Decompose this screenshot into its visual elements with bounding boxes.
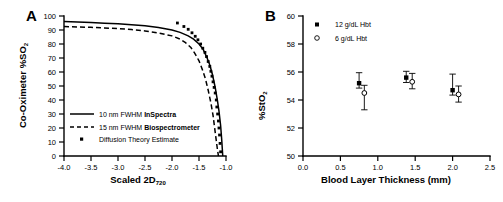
- figure-container: A Co-Oximeter %SO2 Scaled 2D720: [0, 0, 503, 202]
- data-point: [197, 38, 200, 41]
- y-tick-label: 90: [48, 26, 56, 35]
- panel-a-x-axis-title: Scaled 2D720: [110, 174, 166, 186]
- x-tick-label: 0.5: [335, 163, 345, 172]
- data-point: [204, 51, 207, 54]
- y-tick-label: 40: [48, 96, 56, 105]
- legend-item-1: 15 nm FWHM Biospectrometer: [99, 124, 200, 132]
- panel-a-x-ticks: [64, 156, 226, 161]
- y-tick-label: 0: [52, 152, 56, 161]
- svg-text:Co-Oximeter %SO2: Co-Oximeter %SO2: [17, 42, 29, 128]
- error-bar: [356, 73, 362, 88]
- y-tick-label: 50: [48, 82, 56, 91]
- data-point-filled-square: [404, 75, 408, 79]
- data-point: [194, 35, 197, 38]
- panel-a-plot: Co-Oximeter %SO2 Scaled 2D720: [0, 0, 251, 202]
- x-tick-label: 1.5: [410, 163, 420, 172]
- panel-b-x-axis-title: Blood Layer Thickness (mm): [321, 174, 451, 185]
- panel-a: A Co-Oximeter %SO2 Scaled 2D720: [0, 0, 251, 202]
- legend-item-0: 10 nm FWHM InSpectra: [99, 111, 176, 119]
- data-point: [219, 150, 222, 153]
- y-tick-label: 70: [48, 54, 56, 63]
- data-point-open-circle: [410, 79, 415, 84]
- legend-item-0: 12 g/dL Hbt: [335, 21, 371, 29]
- panel-a-y-tick-labels: 100 90 80 70 60 50 40 30 20 10 0: [43, 12, 56, 161]
- x-tick-label: 0.0: [298, 163, 308, 172]
- panel-b: B %StO2 Blood Layer Thickness (mm): [251, 0, 503, 202]
- data-point: [187, 28, 190, 31]
- data-point: [176, 22, 179, 25]
- data-point-open-circle: [456, 92, 461, 97]
- panel-a-ylabel-sub: 2: [23, 42, 29, 46]
- panel-b-y-ticks: [298, 16, 303, 156]
- y-tick-label: 50: [287, 152, 295, 161]
- x-tick-label: -2.5: [139, 163, 152, 172]
- panel-a-x-tick-labels: -4.0 -3.5 -3.0 -2.5 -2.0 -1.5 -1.0: [58, 163, 233, 172]
- panel-b-legend: 12 g/dL Hbt 6 g/dL Hbt: [315, 21, 371, 43]
- y-tick-label: 30: [48, 110, 56, 119]
- x-tick-label: 2.0: [447, 163, 457, 172]
- y-tick-label: 56: [287, 68, 295, 77]
- legend-open-circle-icon: [315, 36, 320, 41]
- data-point: [201, 47, 204, 50]
- series-12gdl-points: [356, 71, 456, 95]
- y-tick-label: 52: [287, 124, 295, 133]
- x-tick-label: 1.0: [373, 163, 383, 172]
- svg-text:%StO2: %StO2: [256, 91, 268, 120]
- x-tick-label: -1.0: [220, 163, 233, 172]
- y-tick-label: 54: [287, 96, 295, 105]
- panel-a-legend: 10 nm FWHM InSpectra 15 nm FWHM Biospect…: [70, 111, 200, 144]
- series-6gdl-points: [361, 73, 462, 109]
- panel-b-y-axis-title: %StO2: [256, 91, 268, 120]
- panel-b-y-tick-labels: 60 58 56 54 52 50: [287, 12, 295, 161]
- x-tick-label: 2.5: [485, 163, 495, 172]
- panel-a-y-ticks: [59, 16, 64, 156]
- y-tick-label: 60: [48, 68, 56, 77]
- data-point: [213, 86, 216, 89]
- data-point: [207, 60, 210, 63]
- data-point: [215, 99, 218, 102]
- panel-a-y-axis-title: Co-Oximeter %SO2: [17, 42, 29, 128]
- legend-filled-square-icon: [315, 23, 319, 27]
- data-point: [217, 120, 220, 123]
- y-tick-label: 58: [287, 40, 295, 49]
- x-tick-label: -2.0: [166, 163, 179, 172]
- data-point: [218, 134, 221, 137]
- panel-a-ylabel-text: Co-Oximeter %SO: [17, 46, 28, 128]
- panel-b-ylabel-sub: 2: [262, 91, 268, 95]
- legend-filled-square-icon: [80, 138, 83, 141]
- y-tick-label: 100: [43, 12, 56, 21]
- panel-a-xlabel-text: Scaled 2D: [110, 174, 156, 185]
- panel-b-plot: %StO2 Blood Layer Thickness (mm) 60: [251, 0, 503, 202]
- y-tick-label: 10: [48, 138, 56, 147]
- data-point-filled-square: [357, 81, 361, 85]
- data-point: [218, 127, 221, 130]
- legend-item-2: Diffusion Theory Estimate: [99, 136, 179, 144]
- legend-item-1: 6 g/dL Hbt: [335, 35, 367, 43]
- y-tick-label: 20: [48, 124, 56, 133]
- data-point: [199, 43, 202, 46]
- panel-a-xlabel-sub: 720: [156, 180, 167, 186]
- x-tick-label: -3.5: [85, 163, 98, 172]
- y-tick-label: 60: [287, 12, 295, 21]
- data-point: [208, 65, 211, 68]
- data-point: [182, 25, 185, 28]
- data-point: [211, 75, 214, 78]
- data-point: [191, 31, 194, 34]
- data-point: [209, 70, 212, 73]
- panel-b-ylabel-text: %StO: [256, 95, 267, 120]
- data-point-open-circle: [362, 91, 367, 96]
- error-bar: [361, 85, 367, 110]
- panel-b-x-ticks: [303, 156, 490, 161]
- x-tick-label: -4.0: [58, 163, 71, 172]
- panel-b-x-tick-labels: 0.0 0.5 1.0 1.5 2.0 2.5: [298, 163, 495, 172]
- data-point: [214, 92, 217, 95]
- data-point-filled-square: [450, 88, 454, 92]
- data-point: [212, 80, 215, 83]
- data-point: [216, 113, 219, 116]
- svg-text:Scaled 2D720: Scaled 2D720: [110, 174, 166, 186]
- panel-b-xlabel-text: Blood Layer Thickness (mm): [321, 174, 451, 185]
- data-point: [215, 106, 218, 109]
- x-tick-label: -1.5: [193, 163, 206, 172]
- data-point: [205, 55, 208, 58]
- y-tick-label: 80: [48, 40, 56, 49]
